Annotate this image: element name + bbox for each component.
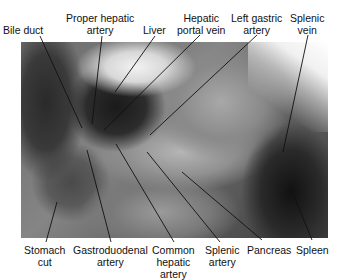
leader-common-hepatic-artery	[116, 144, 174, 242]
label-common-hepatic-artery: Common hepatic artery	[152, 244, 195, 280]
label-stomach-cut: Stomach cut	[24, 244, 65, 268]
leader-gastroduodenal-artery	[87, 150, 111, 242]
leader-proper-hepatic-artery	[92, 36, 102, 124]
leader-liver	[115, 36, 155, 92]
leader-spleen	[294, 196, 312, 240]
leader-stomach-cut	[46, 202, 57, 242]
leader-hepatic-portal-vein	[104, 35, 200, 130]
label-spleen: Spleen	[296, 244, 329, 256]
label-left-gastric-artery: Left gastric artery	[231, 12, 282, 36]
leader-pancreas	[182, 172, 262, 240]
leader-left-gastric-artery	[150, 35, 257, 135]
label-gastroduodenal-artery: Gastroduodenal artery	[73, 244, 148, 268]
leader-bile-duct	[40, 36, 82, 128]
label-bile-duct: Bile duct	[3, 24, 43, 36]
label-splenic-artery: Splenic artery	[205, 244, 239, 268]
leader-splenic-vein	[283, 35, 308, 152]
label-proper-hepatic-artery: Proper hepatic artery	[66, 12, 134, 36]
label-liver: Liver	[143, 24, 166, 36]
label-splenic-vein: Splenic vein	[290, 12, 324, 36]
label-hepatic-portal-vein: Hepatic portal vein	[177, 12, 225, 36]
leader-splenic-artery	[147, 152, 220, 242]
label-pancreas: Pancreas	[247, 244, 291, 256]
